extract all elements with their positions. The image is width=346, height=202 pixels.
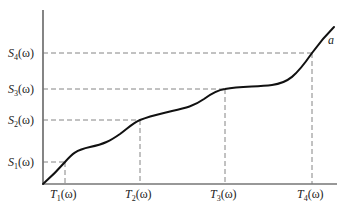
y-label-s1: S1(ω) [8, 155, 34, 171]
y-label-s3: S3(ω) [8, 82, 34, 98]
curve-label: a [328, 33, 334, 47]
diagram-canvas: a S4(ω) S3(ω) S2(ω) S1(ω) T1(ω) T2(ω) T3… [0, 0, 346, 202]
vertical-guides [65, 53, 312, 184]
y-label-s2: S2(ω) [8, 113, 34, 129]
curve-a [43, 27, 334, 184]
y-label-s4: S4(ω) [8, 46, 34, 62]
x-label-t2: T2(ω) [125, 187, 152, 202]
x-label-t3: T3(ω) [210, 187, 237, 202]
horizontal-guides [43, 53, 312, 162]
x-label-t1: T1(ω) [50, 187, 77, 202]
x-label-t4: T4(ω) [297, 187, 324, 202]
